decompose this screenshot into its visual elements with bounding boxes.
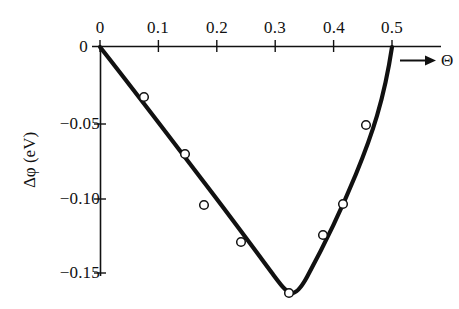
- data-point: [181, 150, 190, 159]
- data-point: [339, 200, 348, 209]
- x-tick-label-4: 0.4: [323, 18, 345, 38]
- x-tick-label-2: 0.2: [206, 18, 228, 38]
- data-point: [140, 93, 149, 102]
- x-tick-label-3: 0.3: [264, 18, 286, 38]
- data-point: [200, 201, 209, 210]
- y-tick-label-0: 0: [79, 37, 88, 57]
- y-tick-label-2: −0.10: [60, 189, 100, 209]
- x-tick-label-5: 0.5: [381, 18, 403, 38]
- data-point: [319, 231, 328, 240]
- data-point: [237, 238, 246, 247]
- data-point: [285, 289, 294, 298]
- x-axis-title: Θ: [441, 51, 453, 71]
- y-axis-title: Δφ (eV): [20, 132, 40, 188]
- x-tick-label-0: 0: [96, 18, 105, 38]
- y-tick-label-3: −0.15: [60, 263, 100, 283]
- figure-container: 0 0.1 0.2 0.3 0.4 0.5 0 −0.05 −0.10 −0.1…: [0, 0, 459, 309]
- y-tick-label-1: −0.05: [60, 114, 100, 134]
- x-tick-label-1: 0.1: [147, 18, 169, 38]
- data-point: [362, 121, 371, 130]
